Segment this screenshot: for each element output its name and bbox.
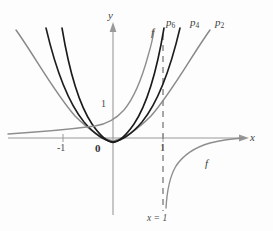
x-tick-label-one: 1 (160, 143, 165, 153)
math-figure (0, 0, 273, 231)
curve-label-p4: p4 (190, 17, 199, 29)
p6-subscript: 6 (172, 21, 176, 30)
curve-label-f-top: f (151, 27, 154, 38)
curve-f-lower (166, 138, 244, 208)
y-axis-label: y (108, 10, 113, 21)
p4-subscript: 4 (196, 21, 200, 30)
origin-label: 0 (95, 143, 101, 154)
x-tick-label-neg-one: -1 (57, 143, 65, 153)
x-axis-label: x (250, 132, 255, 143)
y-tick-label-one: 1 (101, 99, 106, 109)
curve-label-p2: p2 (215, 17, 224, 29)
p2-subscript: 2 (221, 21, 225, 30)
curve-label-f-bottom: f (205, 158, 208, 169)
asymptote-label: x = 1 (147, 214, 167, 224)
curve-label-p6: p6 (166, 17, 175, 29)
